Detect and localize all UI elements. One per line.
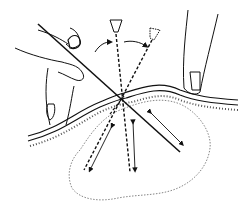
illustration: [0, 0, 247, 217]
redirect-arrow-left: [95, 42, 110, 52]
redirect-arrow-right: [124, 41, 146, 46]
syringe-hub: [68, 36, 80, 49]
needle-hub-vertical: [110, 20, 122, 32]
right-finger-icon: [183, 10, 218, 94]
left-hand-icon: [15, 28, 84, 125]
motion-arrow-center: [133, 122, 135, 170]
skin-surface-inner: [28, 91, 238, 141]
motion-arrow-left: [90, 126, 112, 170]
needle-hub-angled: [150, 28, 160, 40]
